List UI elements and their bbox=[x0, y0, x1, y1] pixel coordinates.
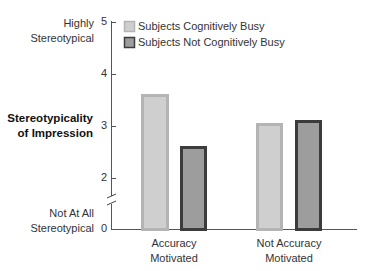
legend-swatch-busy bbox=[125, 22, 135, 32]
legend-label-busy: Subjects Cognitively Busy bbox=[138, 20, 265, 32]
x-category-not-accuracy-line1: Not Accuracy bbox=[239, 236, 339, 251]
bar-accuracy-busy bbox=[143, 96, 168, 230]
bar-accuracy-not-busy bbox=[182, 148, 206, 230]
x-category-not-accuracy: Not Accuracy Motivated bbox=[239, 236, 339, 266]
legend-swatch-not-busy bbox=[125, 38, 135, 48]
x-category-accuracy-line2: Motivated bbox=[124, 251, 224, 266]
x-category-accuracy: Accuracy Motivated bbox=[124, 236, 224, 266]
x-category-not-accuracy-line2: Motivated bbox=[239, 251, 339, 266]
x-category-accuracy-line1: Accuracy bbox=[124, 236, 224, 251]
bar-not-accuracy-busy bbox=[258, 125, 282, 230]
legend-label-not-busy: Subjects Not Cognitively Busy bbox=[138, 36, 285, 48]
bar-not-accuracy-not-busy bbox=[297, 122, 321, 230]
